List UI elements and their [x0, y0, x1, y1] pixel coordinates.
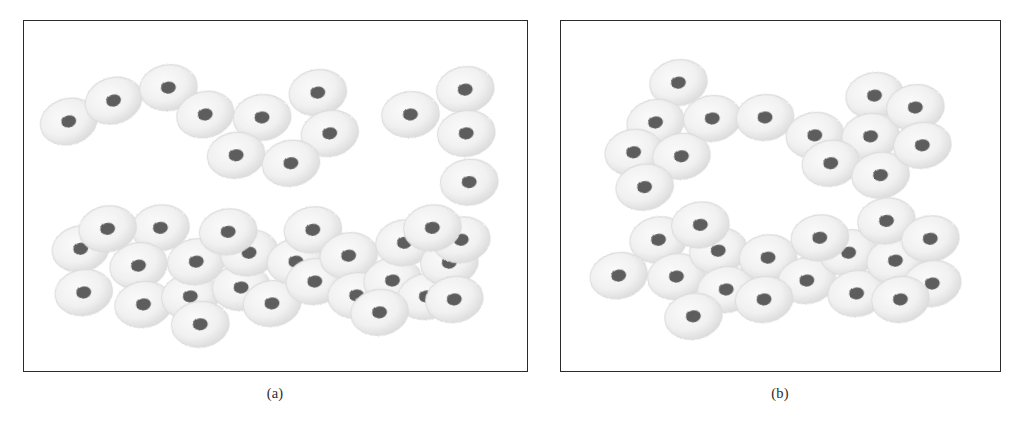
- cell-cluster-upper-right-group: [379, 62, 500, 208]
- cell: [434, 107, 498, 160]
- panel-b-frame: [560, 20, 1001, 372]
- panel-b-canvas: [561, 21, 1000, 371]
- cell-cluster-lower-horseshoe: [586, 194, 965, 344]
- panel-a-frame: [23, 20, 528, 372]
- figure-root: (a)(b): [0, 0, 1023, 431]
- cell: [438, 156, 500, 208]
- cell-cluster-upper-horseshoe: [601, 55, 954, 214]
- panel-a-canvas: [24, 21, 527, 371]
- cell: [379, 89, 441, 141]
- panel-a-caption: (a): [215, 385, 335, 402]
- panel-b-caption: (b): [720, 385, 840, 402]
- cell: [433, 62, 498, 117]
- cell-cluster-lower-band: [48, 201, 493, 350]
- cell-cluster-upper-left-chain: [35, 61, 363, 191]
- cell: [51, 265, 116, 320]
